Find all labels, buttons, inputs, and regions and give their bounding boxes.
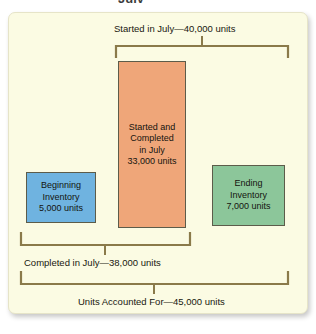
- box-line: 5,000 units: [39, 203, 83, 215]
- box-line: Inventory: [42, 192, 79, 204]
- box-line: Started and: [129, 122, 176, 134]
- box-ending-inventory: Ending Inventory 7,000 units: [212, 165, 285, 226]
- box-beginning-inventory: Beginning Inventory 5,000 units: [26, 172, 96, 223]
- label-started-in-july: Started in July—40,000 units: [114, 23, 235, 34]
- units-flow-diagram: July Started and Completed in July 33,00…: [0, 0, 316, 334]
- label-units-accounted-for: Units Accounted For—45,000 units: [78, 296, 225, 307]
- box-line: Ending: [234, 178, 262, 190]
- box-line: 33,000 units: [127, 156, 176, 168]
- box-line: Beginning: [41, 180, 81, 192]
- box-line: 7,000 units: [226, 201, 270, 213]
- box-line: Inventory: [230, 190, 267, 202]
- label-completed-in-july: Completed in July—38,000 units: [24, 257, 161, 268]
- box-line: Completed: [130, 133, 174, 145]
- box-line: in July: [139, 145, 165, 157]
- box-started-and-completed: Started and Completed in July 33,000 uni…: [118, 61, 186, 228]
